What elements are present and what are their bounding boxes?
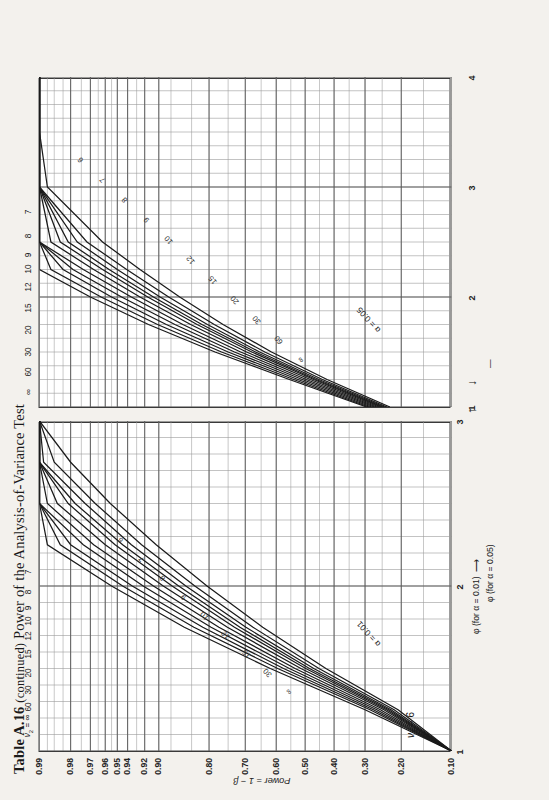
- v2-curve-label-top2-3: 20: [24, 325, 33, 334]
- y-tick-label: 0.99: [33, 758, 43, 796]
- y-tick-label: 0.95: [111, 758, 121, 796]
- alpha-0.01-panel: [38, 422, 450, 752]
- y-tick-label: 0.20: [395, 758, 405, 796]
- v2-curve-label-top-5: 12: [24, 631, 33, 640]
- y-tick-label: 0.30: [359, 758, 369, 796]
- grid-and-curves: [39, 421, 451, 751]
- y-tick-label: 0.10: [445, 758, 455, 796]
- v2-curve-label-top-0: ν2 = ∞: [23, 715, 34, 738]
- y-tick-label: 0.80: [203, 758, 213, 796]
- y-tick-label: 0.40: [328, 758, 338, 796]
- v2-curve-label-top2-5: 12: [24, 282, 33, 291]
- v2-curve-label-top2-2: 30: [24, 347, 33, 356]
- v2-curve-label-top2-4: 15: [24, 303, 33, 312]
- x-tick-label: 1: [454, 749, 464, 754]
- v2-curve-label-top2-0: ∞: [24, 389, 33, 395]
- y-tick-label: 0.97: [84, 758, 94, 796]
- x-axis-title-alpha-005: φ (for α = 0.05): [484, 540, 494, 602]
- rotated-figure-canvas: Table A.16 (continued) Power of the Anal…: [0, 0, 549, 800]
- v2-curve-label-top-8: 8: [24, 590, 33, 595]
- grid-and-curves: [39, 77, 451, 407]
- v2-curve-label-top2-7: 9: [24, 253, 33, 258]
- v2-curve-label-top2-9: 7: [24, 210, 33, 215]
- y-tick-label: 0.92: [138, 758, 148, 796]
- v2-curve-label-top2-8: 8: [24, 234, 33, 239]
- v1-label: ν1 = 6: [404, 712, 418, 738]
- x-tick-label: 2: [454, 584, 464, 589]
- phi-axis-down-arrow: ↓: [464, 380, 478, 386]
- x-tick-label: 2: [466, 295, 476, 300]
- v2-curve-label-top-3: 20: [24, 668, 33, 677]
- v2-curve-label-top-6: 10: [24, 616, 33, 625]
- x-tick-label: 4: [466, 75, 476, 80]
- x-tick-label: 3: [454, 419, 464, 424]
- x-axis-title-alpha-001-text: φ (for α = 0.01): [470, 576, 480, 634]
- x-axis-title-alpha-005-text: φ (for α = 0.05): [484, 544, 494, 602]
- v2-curve-label-top-1: 60: [24, 702, 33, 711]
- y-tick-label: 0.96: [99, 758, 109, 796]
- v2-curve-label-top-2: 30: [24, 685, 33, 694]
- y-tick-label: 0.98: [64, 758, 74, 796]
- page-background: Table A.16 (continued) Power of the Anal…: [0, 0, 549, 800]
- y-tick-label: 0.94: [121, 758, 131, 796]
- phi-axis-connector: —: [484, 359, 494, 368]
- y-tick-label: 0.90: [152, 758, 162, 796]
- y-tick-label: 0.50: [299, 758, 309, 796]
- v2-curve-label-top-9: 7: [24, 570, 33, 575]
- x-axis-title-alpha-001: φ (for α = 0.01)⟶: [470, 560, 480, 634]
- v2-curve-label-top2-1: 60: [24, 367, 33, 376]
- x-tick-label: 3: [466, 185, 476, 190]
- v2-curve-label-top-4: 15: [24, 649, 33, 658]
- x-axis-title-alpha-001-arrow: ⟶: [470, 560, 480, 572]
- y-axis-title: Power = 1 − β: [233, 776, 290, 786]
- phi-axis-up-arrow: ↑: [464, 408, 478, 414]
- title-text: Power of the Analysis-of-Variance Test: [10, 404, 26, 639]
- v2-curve-label-top2-6: 10: [24, 264, 33, 273]
- alpha-0.05-panel: [38, 78, 450, 408]
- v2-curve-label-top-7: 9: [24, 606, 33, 611]
